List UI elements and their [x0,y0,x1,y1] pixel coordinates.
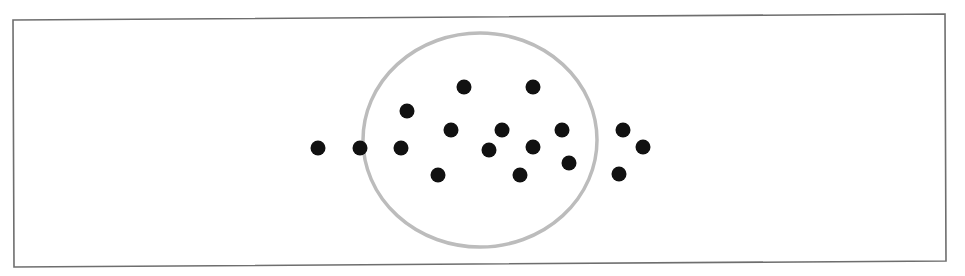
data-point [526,80,541,95]
dot-group [311,80,651,183]
data-point [495,123,510,138]
data-point [482,143,497,158]
data-point [636,140,651,155]
data-point [562,156,577,171]
data-point [612,167,627,182]
data-point [616,123,631,138]
data-point [555,123,570,138]
data-point [513,168,528,183]
diagram-canvas [0,0,965,276]
data-point [457,80,472,95]
data-point [444,123,459,138]
diagram-frame [13,14,946,267]
boundary-circle [363,33,597,247]
data-point [526,140,541,155]
data-point [311,141,326,156]
data-point [400,104,415,119]
data-point [431,168,446,183]
data-point [394,141,409,156]
data-point [353,141,368,156]
